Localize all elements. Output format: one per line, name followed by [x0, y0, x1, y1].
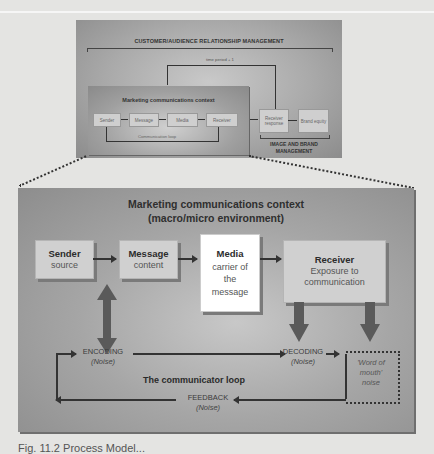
- receiver-title: Receiver: [284, 254, 385, 266]
- mini-message: Message: [129, 113, 159, 127]
- mini-media: Media: [167, 113, 198, 127]
- arrow-message-media: [178, 258, 197, 260]
- encoding-noise: (Noise): [91, 357, 115, 366]
- arrow-decoding-wom: [326, 353, 339, 355]
- feedback-noise: (Noise): [196, 403, 220, 412]
- message-sub: content: [120, 260, 177, 272]
- down-arrow-icon: [360, 302, 380, 342]
- media-box: Media carrier of the message: [200, 234, 260, 312]
- brand-equity-box: Brand equity: [298, 109, 329, 133]
- arrow-sender-message: [93, 258, 116, 260]
- zoom-connector-left: [19, 155, 87, 187]
- loop-right-line: [345, 354, 347, 399]
- sender-sub: source: [36, 260, 93, 272]
- context-box: Marketing communications context Sender …: [88, 86, 249, 155]
- zoom-connector-right: [249, 155, 414, 189]
- image-bracket: [260, 135, 330, 139]
- media-sub-2: the: [201, 273, 259, 286]
- overview-diagram: CUSTOMER/AUDIENCE RELATIONSHIP MANAGEMEN…: [76, 20, 342, 158]
- double-arrow-icon: [96, 284, 118, 354]
- receiver-response-box: Receiver response: [259, 109, 289, 133]
- media-sub-1: carrier of: [201, 261, 259, 274]
- communicator-loop-title: The communicator loop: [143, 375, 245, 385]
- image-brand-label: IMAGE AND BRAND MANAGEMENT: [256, 141, 332, 155]
- mini-receiver: Receiver: [206, 113, 238, 127]
- time-loop-right: [275, 65, 276, 109]
- figure-caption: Fig. 11.2 Process Model...: [18, 442, 145, 454]
- arrow-to-encoding: [56, 353, 76, 355]
- image-brand-line2: MANAGEMENT: [256, 148, 332, 155]
- arrow-feedback-left: [56, 399, 176, 401]
- wom-line1: 'Word of: [348, 358, 394, 368]
- wom-line3: noise: [348, 378, 394, 388]
- word-of-mouth-label: 'Word of mouth' noise: [348, 358, 394, 388]
- receiver-sub-2: communication: [284, 277, 385, 289]
- mini-arrow: [288, 120, 297, 121]
- sender-title: Sender: [36, 248, 93, 260]
- context-title: Marketing communications context: [88, 97, 249, 103]
- detail-title-line2: (macro/micro environment): [18, 211, 414, 225]
- image-brand-line1: IMAGE AND BRAND: [256, 141, 332, 148]
- wom-line2: mouth': [348, 368, 394, 378]
- media-title: Media: [201, 248, 259, 261]
- decoding-text: DECODING: [273, 347, 333, 357]
- feedback-label: FEEDBACK (Noise): [176, 393, 240, 413]
- crm-bracket: [87, 48, 333, 52]
- sender-box: Sender source: [35, 240, 94, 279]
- message-title: Message: [120, 248, 177, 260]
- time-loop-left: [167, 65, 168, 85]
- mini-arrow: [121, 119, 128, 120]
- detail-diagram: Marketing communications context (macro/…: [18, 188, 414, 432]
- receiver-sub-1: Exposure to: [284, 266, 385, 278]
- loop-left: [106, 127, 107, 141]
- communication-loop-label: Communication loop: [138, 134, 176, 139]
- arrow-media-receiver: [260, 258, 281, 260]
- decoding-label: DECODING (Noise): [273, 347, 333, 367]
- detail-title: Marketing communications context (macro/…: [18, 197, 414, 225]
- detail-title-line1: Marketing communications context: [18, 197, 414, 211]
- encoding-label: ENCODING (Noise): [78, 347, 128, 367]
- loop-right: [218, 127, 219, 141]
- paper-edge: [0, 11, 434, 13]
- encoding-text: ENCODING: [78, 347, 128, 357]
- crm-title: CUSTOMER/AUDIENCE RELATIONSHIP MANAGEMEN…: [76, 38, 342, 44]
- time-loop-top: [167, 65, 276, 66]
- receiver-box: Receiver Exposure to communication: [283, 240, 386, 303]
- arrow-encoding-decoding: [133, 353, 285, 355]
- mini-arrow: [250, 119, 258, 120]
- mini-arrow: [159, 119, 166, 120]
- arrow-to-feedback: [234, 399, 346, 401]
- down-arrow-icon: [289, 302, 309, 342]
- time-period-label: time period + 1: [206, 57, 234, 62]
- media-sub-3: message: [201, 286, 259, 299]
- decoding-noise: (Noise): [291, 357, 315, 366]
- feedback-text: FEEDBACK: [176, 393, 240, 403]
- mini-arrow: [198, 119, 205, 120]
- message-box: Message content: [119, 240, 178, 279]
- loop-left-line: [56, 353, 58, 401]
- mini-sender: Sender: [93, 113, 121, 127]
- loop-bottom: [106, 141, 219, 142]
